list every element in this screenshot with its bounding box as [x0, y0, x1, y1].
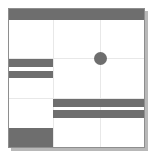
- right-bar-lower: [53, 110, 144, 118]
- grid-line-v-2: [100, 9, 101, 147]
- center-dot-icon: [94, 52, 107, 65]
- header-bar: [9, 9, 144, 20]
- wireframe-canvas: [0, 0, 153, 157]
- layout-frame: [8, 8, 145, 148]
- left-bar-upper: [9, 59, 53, 67]
- frame-shadow-right: [145, 11, 148, 150]
- frame-shadow-bottom: [11, 148, 148, 151]
- left-bar-lower: [9, 71, 53, 78]
- right-bar-upper: [53, 99, 144, 107]
- bottom-left-block: [9, 128, 53, 147]
- grid-line-v-1: [53, 9, 54, 147]
